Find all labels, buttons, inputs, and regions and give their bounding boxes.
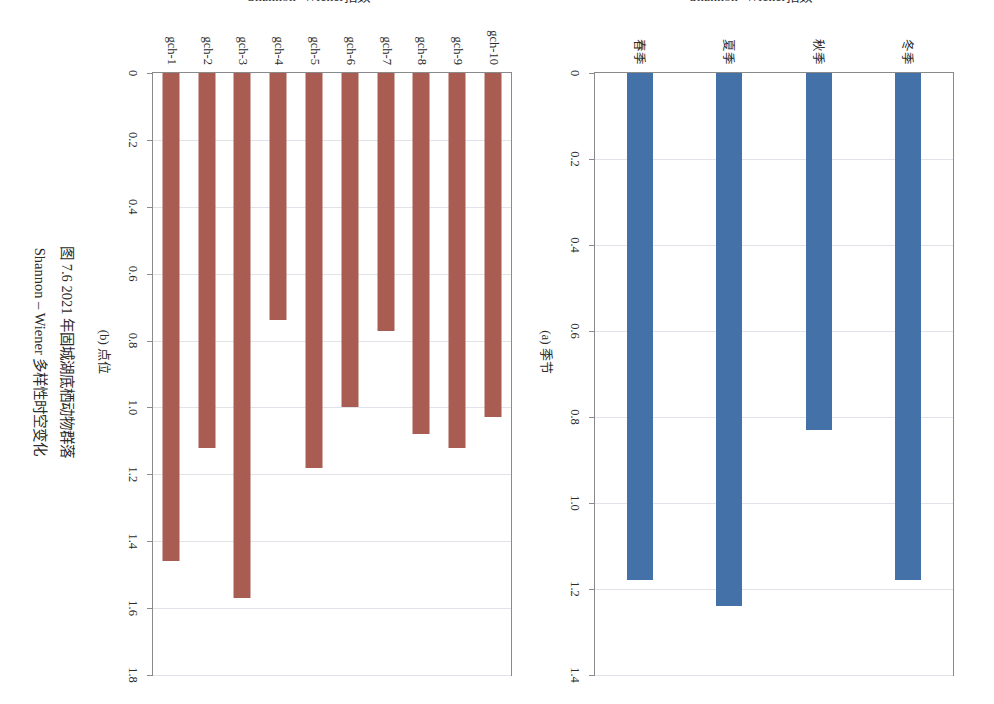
x-axis-tick: [147, 73, 153, 74]
figure-caption-line-2: Shannon – Wiener 多样性时空变化: [26, 0, 53, 704]
x-axis-tick-label: 0.4: [125, 199, 140, 215]
axis-title-y-a: Shannon−Wiener指数: [689, 0, 812, 5]
plot-area-site: 00.20.40.60.81.01.21.41.61.8gch-1gch-2gc…: [152, 72, 512, 676]
x-axis-tick: [147, 274, 153, 275]
bar: [413, 73, 430, 434]
chart-panel-season: Shannon−Wiener指数 00.20.40.60.81.01.21.4春…: [536, 0, 966, 704]
category-label: gch-4: [271, 37, 286, 65]
x-axis-tick: [589, 331, 595, 332]
x-axis-tick: [147, 608, 153, 609]
gridline: [595, 675, 953, 676]
x-axis-tick-label: 1.4: [125, 533, 140, 549]
category-label: 夏季: [720, 39, 739, 65]
figure-caption-line-1: 图 7.6 2021 年固城湖底栖动物群落: [53, 0, 80, 704]
category-label: 冬季: [899, 39, 918, 65]
category-label: gch-9: [450, 37, 465, 65]
bar: [306, 73, 323, 468]
bar: [627, 73, 653, 580]
x-axis-tick: [147, 541, 153, 542]
x-axis-tick-label: 0.6: [567, 323, 582, 339]
x-axis-tick: [147, 341, 153, 342]
x-axis-tick: [589, 417, 595, 418]
bar: [341, 73, 358, 407]
gridline: [153, 541, 511, 542]
figure-7-6: Shannon−Wiener指数 00.20.40.60.81.01.21.4春…: [0, 0, 994, 704]
x-axis-tick: [589, 245, 595, 246]
x-axis-tick-label: 1.4: [567, 667, 582, 683]
bar: [198, 73, 215, 448]
category-label: 秋季: [809, 39, 828, 65]
x-axis-tick-label: 1.0: [125, 400, 140, 416]
plot-area-season: 00.20.40.60.81.01.21.4春季夏季秋季冬季: [594, 72, 954, 676]
bar: [162, 73, 179, 561]
bar: [806, 73, 832, 430]
x-axis-tick: [147, 407, 153, 408]
x-axis-tick-label: 0.8: [125, 333, 140, 349]
subcaption-a: (a) 季节: [538, 0, 557, 704]
x-axis-tick-label: 0.2: [125, 132, 140, 148]
x-axis-tick-label: 0.8: [567, 409, 582, 425]
bar: [377, 73, 394, 331]
category-label: gch-2: [199, 37, 214, 65]
x-axis-tick: [147, 140, 153, 141]
bar: [485, 73, 502, 417]
category-label: 春季: [630, 39, 649, 65]
category-label: gch-5: [307, 37, 322, 65]
gridline: [595, 589, 953, 590]
x-axis-tick: [589, 675, 595, 676]
subcaption-b: (b) 点位: [96, 0, 115, 704]
x-axis-tick-label: 0: [567, 70, 582, 76]
x-axis-tick-label: 0.6: [125, 266, 140, 282]
x-axis-tick: [147, 474, 153, 475]
bar: [449, 73, 466, 448]
chart-panel-site: Shannon−Wiener指数 00.20.40.60.81.01.21.41…: [94, 0, 524, 704]
gridline: [153, 675, 511, 676]
category-label: gch-6: [342, 37, 357, 65]
gridline: [153, 608, 511, 609]
x-axis-tick: [589, 589, 595, 590]
bar: [234, 73, 251, 598]
x-axis-tick: [589, 73, 595, 74]
x-axis-tick-label: 0.2: [567, 151, 582, 167]
figure-caption: 图 7.6 2021 年固城湖底栖动物群落 Shannon – Wiener 多…: [26, 0, 80, 704]
bar: [270, 73, 287, 320]
rotated-page-stage: Shannon−Wiener指数 00.20.40.60.81.01.21.4春…: [0, 0, 994, 704]
gridline: [153, 474, 511, 475]
x-axis-tick: [589, 503, 595, 504]
x-axis-tick-label: 0.4: [567, 237, 582, 253]
category-label: gch-1: [163, 37, 178, 65]
category-label: gch-8: [414, 37, 429, 65]
x-axis-tick-label: 0: [125, 70, 140, 76]
category-label: gch-7: [378, 37, 393, 65]
bar: [716, 73, 742, 606]
x-axis-tick-label: 1.6: [125, 600, 140, 616]
x-axis-tick-label: 1.2: [567, 581, 582, 597]
x-axis-tick: [147, 207, 153, 208]
x-axis-tick-label: 1.8: [125, 667, 140, 683]
axis-title-y-b: Shannon−Wiener指数: [247, 0, 370, 5]
bar: [895, 73, 921, 580]
category-label: gch-3: [235, 37, 250, 65]
x-axis-tick: [589, 159, 595, 160]
x-axis-tick: [147, 675, 153, 676]
x-axis-tick-label: 1.0: [567, 495, 582, 511]
category-label: gch-10: [486, 30, 501, 65]
x-axis-tick-label: 1.2: [125, 467, 140, 483]
